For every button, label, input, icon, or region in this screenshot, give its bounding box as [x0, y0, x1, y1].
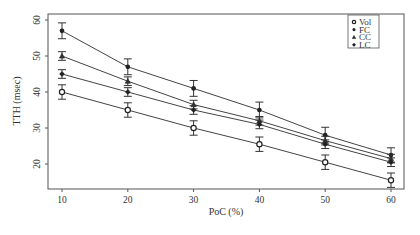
y-tick-label: 60 [32, 15, 42, 25]
line-chart: 2030405060 102030405060 TTH (msec) PoC (… [0, 0, 420, 235]
x-tick-label: 50 [320, 195, 330, 205]
x-tick-label: 30 [189, 195, 199, 205]
star-marker [59, 71, 64, 76]
filled-circle-marker [352, 28, 355, 31]
x-tick-label: 40 [255, 195, 265, 205]
x-tick-label: 10 [57, 195, 67, 205]
series-line [62, 56, 391, 159]
open-circle-marker [352, 20, 355, 23]
filled-circle-marker [191, 86, 196, 91]
open-circle-marker [323, 160, 328, 165]
star-marker [191, 107, 196, 112]
filled-circle-marker [125, 64, 130, 69]
series-vol [58, 85, 395, 188]
legend: VolFCCCLC [348, 15, 379, 50]
y-axis: 2030405060 [32, 15, 48, 169]
open-circle-marker [388, 178, 393, 183]
open-circle-marker [257, 142, 262, 147]
legend-label: LC [359, 40, 371, 50]
series-lc [58, 70, 395, 167]
x-axis: 102030405060 [57, 189, 396, 205]
series-cc [58, 52, 395, 163]
y-tick-label: 40 [32, 87, 42, 97]
open-circle-marker [59, 89, 64, 94]
open-circle-marker [125, 107, 130, 112]
y-tick-label: 50 [32, 51, 42, 61]
x-axis-title: PoC (%) [209, 206, 244, 218]
filled-circle-marker [257, 108, 262, 113]
open-circle-marker [191, 125, 196, 130]
series-fc [58, 23, 395, 162]
star-marker [125, 89, 130, 94]
y-tick-label: 30 [32, 123, 42, 133]
x-tick-label: 60 [386, 195, 396, 205]
triangle-marker [59, 53, 64, 58]
x-tick-label: 20 [123, 195, 133, 205]
filled-circle-marker [60, 28, 65, 33]
series-layer [58, 23, 395, 188]
y-tick-label: 20 [32, 159, 42, 169]
series-line [62, 74, 391, 162]
series-line [62, 92, 391, 180]
y-axis-title: TTH (msec) [11, 76, 23, 125]
